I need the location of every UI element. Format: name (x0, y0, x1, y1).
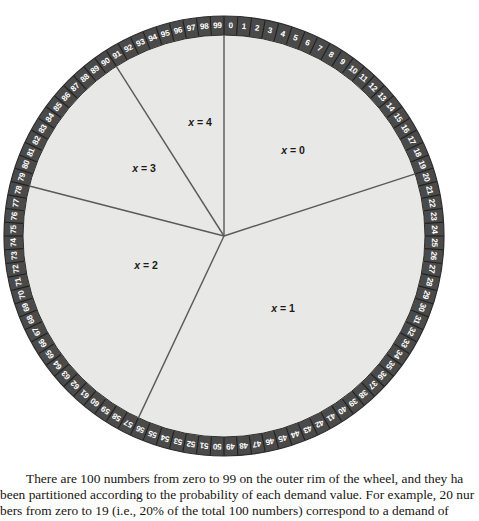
sector-label-x3: x= 3 (131, 162, 156, 174)
rim-number-26: 26 (429, 251, 439, 261)
wheel-svg: 0123456789101112131415161718192021222324… (0, 0, 479, 462)
rim-number-75: 75 (9, 224, 18, 234)
sector-label-x0: x= 0 (280, 144, 305, 156)
rim-number-49: 49 (225, 442, 235, 451)
rim-number-24: 24 (430, 225, 439, 235)
sector-label-x4: x= 4 (187, 116, 212, 128)
rim-number-25: 25 (430, 238, 439, 248)
roulette-wheel-figure: 0123456789101112131415161718192021222324… (0, 0, 479, 462)
caption-line-3: bers from zero to 19 (i.e., 20% of the t… (0, 503, 479, 519)
rim-number-76: 76 (10, 211, 20, 221)
rim-number-73: 73 (9, 250, 19, 260)
sector-label-x1: x= 1 (270, 302, 295, 314)
rim-number-51: 51 (199, 441, 209, 451)
caption-block: There are 100 numbers from zero to 99 on… (0, 462, 479, 521)
caption-line-1: There are 100 numbers from zero to 99 on… (0, 462, 479, 487)
rim-number-74: 74 (9, 237, 18, 247)
rim-number-99: 99 (213, 21, 223, 30)
rim-number-23: 23 (429, 211, 439, 221)
sector-label-x2: x= 2 (133, 259, 158, 271)
rim-number-50: 50 (212, 442, 222, 451)
caption-line-2: been partitioned according to the probab… (0, 487, 479, 503)
rim-number-48: 48 (238, 441, 248, 451)
rim-number-98: 98 (199, 21, 209, 31)
